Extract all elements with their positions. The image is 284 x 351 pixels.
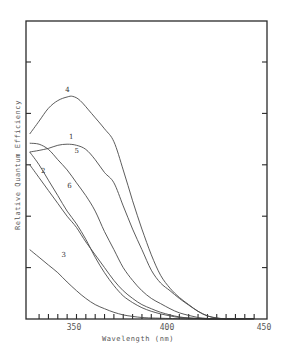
x-axis-label: Wavelength (nm): [102, 335, 174, 343]
curve-label-2: 2: [41, 167, 45, 175]
x-tick-label-450: 450: [257, 323, 272, 332]
curve-4: [30, 96, 254, 319]
curve-label-6: 6: [67, 182, 72, 190]
axis-ticks: [26, 62, 267, 319]
curve-labels: 123456: [41, 86, 79, 260]
curve-5: [30, 143, 254, 319]
curve-label-3: 3: [62, 251, 66, 259]
curves: [30, 96, 254, 319]
curve-6: [30, 152, 254, 319]
curve-label-5: 5: [75, 147, 79, 155]
curve-label-1: 1: [69, 133, 73, 141]
x-tick-label-400: 400: [160, 323, 175, 332]
curve-label-4: 4: [65, 86, 70, 94]
curve-2: [30, 165, 254, 319]
y-axis-label: Relative Quantum Efficiency: [14, 100, 22, 230]
x-tick-label-350: 350: [67, 323, 82, 332]
plot-frame: [26, 21, 267, 319]
quantum-efficiency-chart: 123456 350 400 450 Wavelength (nm) Relat…: [0, 0, 284, 351]
curve-1: [30, 144, 254, 319]
curve-3: [30, 250, 254, 319]
